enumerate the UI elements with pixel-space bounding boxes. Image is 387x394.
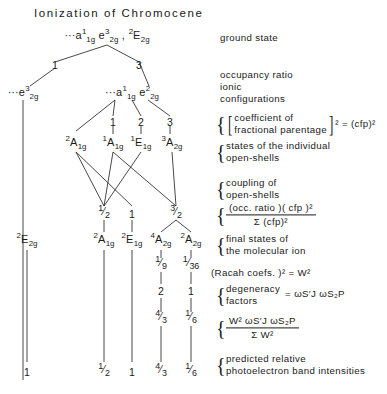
diagram-canvas: Ionization of Chromocene ···a11g e32g , …	[0, 0, 387, 394]
right-bracket-icon: ]	[329, 112, 334, 136]
value-coup-1: 1⁄2	[98, 206, 110, 223]
term-symbol-ground: ···a11g e32g , 2E2g	[64, 28, 149, 44]
curly-brace-icon: {	[216, 235, 226, 255]
term-symbol-ion-right: ···a11g e22g	[105, 85, 159, 101]
value-res-1: 1⁄2	[98, 364, 110, 381]
value-coup-3: 3⁄2	[170, 206, 182, 223]
term-symbol-fs-1: 2A1g	[94, 232, 115, 248]
term-symbol-fs-2: 2E1g	[122, 232, 143, 248]
tree-edge	[104, 152, 141, 206]
left-bracket-icon: [	[228, 112, 233, 136]
annotation-suffix: = ωS′J ωS₂P	[280, 289, 345, 300]
annotation-text: coupling ofopen-shells	[226, 177, 279, 201]
value-res-4: 1⁄6	[185, 364, 197, 381]
value-cfp-1: 1	[110, 117, 116, 128]
term-symbol-fs-4: 2A2g	[181, 232, 202, 248]
curly-brace-icon: {	[216, 205, 226, 225]
value-cfp-2: 2	[138, 117, 144, 128]
term-symbol-fs-3: 4A2g	[151, 232, 172, 248]
value-occ-right: 3	[136, 60, 142, 71]
annotation-text: final states ofthe molecular ion	[226, 233, 306, 257]
term-symbol-os-2: 1E1g	[131, 135, 152, 151]
annotation-intensity-formula: {W² ωS′J ωS₂PΣ W²	[216, 314, 299, 341]
annotation-cfp-squared: {[coefficient offractional parentage]² =…	[216, 112, 376, 136]
value-deg-3: 2	[158, 286, 164, 297]
curly-brace-icon: {	[216, 114, 226, 134]
curly-brace-icon: {	[216, 355, 226, 375]
value-racah-3: 1⁄9	[155, 257, 167, 274]
tree-edge	[76, 152, 132, 206]
annotation-coupling-open-shells: {coupling ofopen-shells	[216, 177, 279, 201]
annotation-text: predicted relativephotoelectron band int…	[226, 353, 365, 377]
curly-brace-icon: {	[216, 318, 226, 338]
value-deg-4: 1	[188, 286, 194, 297]
annotation-text: (Racah coefs. )² = W²	[211, 266, 311, 278]
formula: W² ωS′J ωS₂PΣ W²	[226, 314, 299, 341]
annotation-text: coefficient offractional parentage	[234, 112, 327, 136]
value-res-0: 1	[24, 367, 30, 378]
term-symbol-fs-0: 2E2g	[17, 232, 38, 248]
annotation-text: ionicconfigurations	[220, 81, 285, 105]
value-coup-2: 1	[129, 209, 135, 220]
tree-edge	[55, 45, 107, 62]
annotation-ionic-configurations: ionicconfigurations	[220, 81, 285, 105]
annotation-occupancy-ratio: occupancy ratio	[220, 68, 293, 80]
curly-brace-icon: {	[216, 285, 226, 305]
annotation-states-open-shells: {states of the individualopen-shells	[216, 140, 330, 164]
tree-edge	[148, 100, 170, 116]
tree-edge	[113, 152, 176, 206]
tree-edge	[172, 152, 176, 206]
tree-edge	[107, 45, 139, 62]
page-title: Ionization of Chromocene	[34, 8, 203, 20]
annotation-ground-state: ground state	[220, 31, 278, 43]
term-symbol-ion-left: ···e32g	[8, 85, 39, 101]
value-int-3: 4⁄3	[155, 311, 167, 328]
annotation-text: occupancy ratio	[220, 68, 293, 80]
annotation-text: degeneracyfactors	[226, 283, 280, 307]
value-occ-left: 1	[52, 60, 58, 71]
annotation-suffix: ² = (cfp)²	[335, 118, 375, 129]
annotation-text: states of the individualopen-shells	[226, 140, 330, 164]
tree-edge	[76, 152, 104, 206]
tree-edge	[113, 100, 115, 116]
curly-brace-icon: {	[216, 142, 226, 162]
value-racah-4: 1⁄36	[183, 257, 200, 274]
term-symbol-os-1: 1A1g	[103, 135, 124, 151]
value-res-3: 4⁄3	[155, 364, 167, 381]
annotation-occ-ratio-formula: {(occ. ratio )( cfp )²Σ (cfp)²	[216, 201, 316, 228]
annotation-degeneracy-factors: {degeneracyfactors= ωS′J ωS₂P	[216, 283, 345, 307]
term-symbol-os-3: 3A2g	[162, 135, 183, 151]
tree-edge	[132, 100, 141, 116]
curly-brace-icon: {	[216, 179, 226, 199]
value-int-4: 1⁄6	[185, 311, 197, 328]
annotation-final-states: {final states ofthe molecular ion	[216, 233, 306, 257]
term-symbol-os-0: 2A1g	[66, 135, 87, 151]
formula: (occ. ratio )( cfp )²Σ (cfp)²	[226, 201, 316, 228]
annotation-racah-coefs: (Racah coefs. )² = W²	[211, 266, 311, 278]
tree-edge	[104, 152, 113, 206]
value-cfp-3: 3	[167, 117, 173, 128]
annotation-predicted-intensities: {predicted relativephotoelectron band in…	[216, 353, 365, 377]
annotation-text: ground state	[220, 31, 278, 43]
value-res-2: 1	[129, 367, 135, 378]
